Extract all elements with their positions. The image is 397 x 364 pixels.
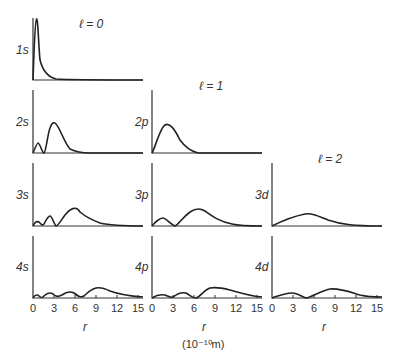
curve-3p [152, 209, 262, 226]
panel-label-2s: 2s [16, 115, 29, 129]
tick-label: 12 [350, 302, 362, 314]
curve-3s [33, 208, 143, 226]
axis-4d [272, 236, 382, 298]
tick-label: 0 [149, 302, 155, 314]
tick-label: 9 [332, 302, 338, 314]
tick-label: 15 [132, 302, 144, 314]
tick-label: 12 [111, 302, 123, 314]
x-axis-unit: (10⁻¹⁰m) [182, 338, 224, 351]
tick-label: 3 [51, 302, 57, 314]
curve-4d [272, 289, 382, 298]
curve-4p [152, 288, 262, 298]
x-axis-label-col2: r [202, 320, 206, 334]
tick-label: 9 [212, 302, 218, 314]
tick-label: 6 [72, 302, 78, 314]
x-axis-label-col1: r [83, 320, 87, 334]
tick-label: 3 [290, 302, 296, 314]
panel-label-3s: 3s [16, 188, 29, 202]
curve-2p [152, 124, 262, 153]
tick-label: 15 [371, 302, 383, 314]
tick-label: 6 [311, 302, 317, 314]
axis-3p [152, 163, 262, 226]
tick-label: 0 [269, 302, 275, 314]
tick-label: 6 [191, 302, 197, 314]
tick-label: 0 [30, 302, 36, 314]
panel-label-3d: 3d [255, 188, 268, 202]
panel-label-1s: 1s [16, 43, 29, 57]
axis-2p [152, 90, 262, 153]
panel-label-4s: 4s [16, 260, 29, 274]
curve-3d [272, 214, 382, 226]
tick-label: 12 [230, 302, 242, 314]
axis-2s [33, 90, 143, 153]
tick-label: 15 [251, 302, 263, 314]
curve-2s [33, 123, 143, 153]
panel-label-2p: 2p [135, 115, 148, 129]
column-label-l1: ℓ = 1 [199, 79, 223, 93]
panel-label-4d: 4d [255, 260, 268, 274]
tick-label: 3 [170, 302, 176, 314]
axis-3d [272, 163, 382, 226]
curve-4s [33, 288, 143, 298]
tick-label: 9 [93, 302, 99, 314]
column-label-l2: ℓ = 2 [318, 152, 342, 166]
column-label-l0: ℓ = 0 [79, 17, 103, 31]
panel-label-4p: 4p [135, 260, 148, 274]
x-axis-label-col3: r [322, 320, 326, 334]
panel-label-3p: 3p [135, 188, 148, 202]
axis-4s [33, 236, 143, 298]
